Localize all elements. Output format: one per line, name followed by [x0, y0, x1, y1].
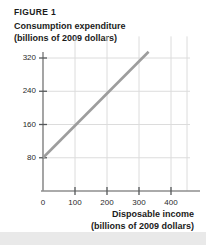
consumption-function-line [43, 52, 149, 158]
figure-container: FIGURE 1 Consumption expenditure (billio… [0, 0, 206, 245]
y-tick-label: 320 [14, 53, 36, 62]
axes-group [41, 52, 200, 191]
data-series-group [43, 52, 149, 158]
y-tick-label: 160 [14, 120, 36, 129]
y-tick-label: 80 [14, 153, 36, 162]
x-tick-label: 100 [63, 198, 87, 207]
x-tick-label: 400 [159, 198, 183, 207]
x-tick-label: 0 [31, 198, 55, 207]
tick-marks-group [39, 58, 171, 195]
y-tick-label: 240 [14, 86, 36, 95]
gridlines-group [43, 36, 190, 191]
x-tick-label: 200 [95, 198, 119, 207]
x-tick-label: 300 [127, 198, 151, 207]
